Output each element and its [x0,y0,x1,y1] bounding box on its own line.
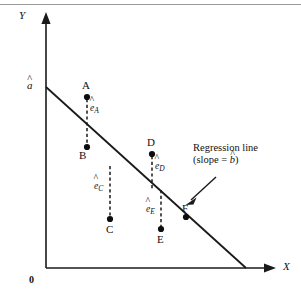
point-label-f: F [182,203,188,214]
annotation-line-2: (slope = ^b) [193,154,258,166]
point-label-c: C [106,224,113,235]
point-label-e: E [157,234,164,245]
hat-accent-intercept: ^ [27,74,32,84]
annotation-line-1: Regression line [193,142,258,154]
residual-label-a: ^eA [90,104,99,115]
data-point-c [107,216,113,222]
annotation-slope-suffix: ) [235,154,239,165]
point-label-d: D [147,137,155,148]
data-point-e [158,226,164,232]
x-axis-label: X [283,261,290,272]
regression-diagram: Y X 0 ^ a A B C D E F ^eA ^eC ^eD ^eE Re… [0,0,301,298]
point-label-b: B [79,150,86,161]
data-point-f [183,214,189,220]
x-axis-arrowhead [264,263,276,272]
origin-label: 0 [29,275,34,285]
residual-label-c: ^eC [94,182,103,193]
residual-label-e: ^eE [146,205,155,216]
residual-label-d: ^eD [155,162,165,173]
hat-accent-residual-d: ^ [155,153,160,163]
point-label-a: A [82,80,90,91]
hat-accent-residual-a: ^ [90,95,95,105]
hat-accent-slope: ^ [230,148,235,160]
intercept-label: ^ a [27,80,33,91]
hat-accent-residual-c: ^ [94,173,99,183]
regression-line-annotation: Regression line (slope = ^b) [193,142,258,166]
hat-accent-residual-e: ^ [146,196,151,206]
annotation-arrow-shaft [191,177,216,200]
y-axis-label: Y [19,10,25,21]
annotation-slope-prefix: (slope = [193,154,230,165]
y-axis-arrowhead [41,12,50,24]
